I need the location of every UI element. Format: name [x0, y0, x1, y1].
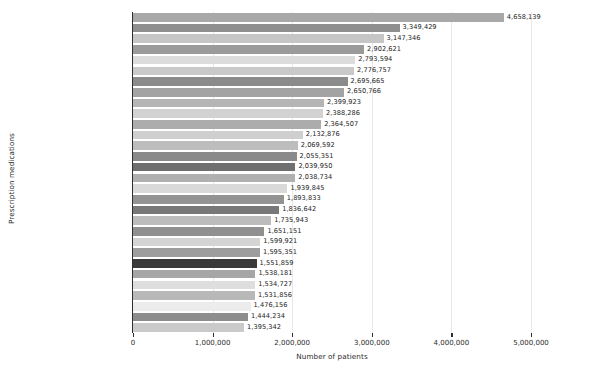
gridline: [531, 12, 532, 333]
x-axis-tick-label: 0: [131, 339, 135, 348]
bar-row: 2,132,876Gabapentin: [133, 130, 531, 141]
bar-value-label: 1,538,181: [258, 269, 292, 279]
bar-value-label: 2,695,665: [351, 77, 385, 87]
x-axis-tick: [372, 333, 373, 337]
bar-row: 2,069,592Losartan potassium: [133, 140, 531, 151]
x-axis-tick-label: 4,000,000: [434, 339, 470, 348]
bar-value-label: 1,531,856: [258, 291, 292, 301]
bar: [133, 270, 255, 279]
bar-row: 4,658,139Atorvastatin calcium: [133, 12, 531, 23]
bar-value-label: 2,388,286: [326, 109, 360, 119]
bar-row: 1,395,342Diclofenac sodium: [133, 322, 531, 333]
bar-value-label: 2,069,592: [301, 141, 335, 151]
bar: [133, 45, 364, 54]
bar: [133, 184, 287, 193]
bar: [133, 259, 257, 268]
bar: [133, 248, 260, 257]
bar-row: 3,147,346Aspirin: [133, 33, 531, 44]
x-axis-tick: [213, 333, 214, 337]
bar-value-label: 1,939,845: [290, 184, 324, 194]
bar: [133, 216, 271, 225]
bar-value-label: 1,595,351: [263, 248, 297, 258]
bar-row: 1,551,859Hydrochlorothiazide: [133, 258, 531, 269]
bar: [133, 13, 504, 22]
bar-value-label: 1,599,921: [263, 237, 297, 247]
bar-row: 2,793,594Albuterol sulfate: [133, 55, 531, 66]
bar-value-label: 1,476,156: [254, 301, 288, 311]
bar-row: 2,388,286Levothyroxine sodium: [133, 108, 531, 119]
bar-row: 2,399,923Furosemide: [133, 98, 531, 109]
bar-value-label: 2,038,734: [298, 173, 332, 183]
bar-row: 1,939,845Fluticasone propionate: [133, 183, 531, 194]
bar: [133, 67, 354, 76]
x-axis-tick-label: 5,000,000: [513, 339, 549, 348]
bar: [133, 281, 255, 290]
bar: [133, 109, 323, 118]
bar-row: 1,444,234Rosuvastatin calcium: [133, 312, 531, 323]
bar: [133, 34, 384, 43]
x-axis-tick-label: 1,000,000: [195, 339, 231, 348]
bar-row: 1,735,943Metoprolol tartrate: [133, 215, 531, 226]
bar: [133, 323, 244, 332]
bar-value-label: 1,836,642: [282, 205, 316, 215]
bar-value-label: 2,364,507: [324, 120, 358, 130]
bar: [133, 152, 297, 161]
bar-row: 2,776,757Hydrocodone/acetaminophen: [133, 66, 531, 77]
bar-row: 1,476,156Potassium chloride: [133, 301, 531, 312]
bar-value-label: 2,793,594: [358, 55, 392, 65]
bar-row: 2,650,766Acetaminophen: [133, 87, 531, 98]
bar-row: 2,695,665Prednisone: [133, 76, 531, 87]
bar-value-label: 1,444,234: [251, 312, 285, 322]
bar-row: 3,349,429Amlodipine besylate: [133, 23, 531, 34]
bar-row: 2,055,351Omeprazole: [133, 151, 531, 162]
bar: [133, 313, 248, 322]
bar: [133, 88, 344, 97]
bar-row: 1,836,642Cephalexin: [133, 205, 531, 216]
bar-row: 1,534,727Apixaban: [133, 280, 531, 291]
bar-value-label: 1,893,833: [287, 194, 321, 204]
bar-value-label: 3,147,346: [387, 34, 421, 44]
bar-row: 1,893,833Tramadol HCl: [133, 194, 531, 205]
bar: [133, 24, 400, 33]
bar: [133, 227, 264, 236]
bar-value-label: 2,902,621: [367, 45, 401, 55]
bar-value-label: 1,395,342: [247, 323, 281, 333]
bar-value-label: 2,132,876: [306, 130, 340, 140]
bar-value-label: 3,349,429: [403, 23, 437, 33]
bar-value-label: 1,735,943: [274, 216, 308, 226]
bar: [133, 77, 348, 86]
bar-value-label: 2,650,766: [347, 87, 381, 97]
plot-area: 4,658,139Atorvastatin calcium3,349,429Am…: [133, 12, 531, 333]
bar-row: 1,651,151Oxycodone HCl: [133, 226, 531, 237]
bar: [133, 174, 295, 183]
x-axis-title: Number of patients: [133, 352, 531, 362]
x-axis-tick: [292, 333, 293, 337]
bar-value-label: 2,055,351: [300, 152, 334, 162]
bar: [133, 291, 255, 300]
bar: [133, 131, 303, 140]
bar: [133, 302, 251, 311]
bar-row: 1,538,181Amoxicillin/potassium clav: [133, 269, 531, 280]
bar-value-label: 1,651,151: [267, 227, 301, 237]
bar-chart: Prescription medications 4,658,139Atorva…: [0, 0, 592, 377]
bar: [133, 120, 321, 129]
bar-row: 2,039,950Pantoprazole sodium: [133, 162, 531, 173]
bar-row: 2,364,507Metoprolol succinate: [133, 119, 531, 130]
y-axis-title: Prescription medications: [6, 12, 18, 345]
x-axis: 01,000,0002,000,0003,000,0004,000,0005,0…: [133, 333, 531, 334]
bar-row: 2,038,734Metformin HCl: [133, 173, 531, 184]
x-axis-tick-label: 2,000,000: [274, 339, 310, 348]
bar-value-label: 2,776,757: [357, 66, 391, 76]
bar-value-label: 2,039,950: [298, 162, 332, 172]
bar: [133, 99, 324, 108]
bar-value-label: 1,551,859: [260, 259, 294, 269]
bar: [133, 206, 279, 215]
bar-row: 1,599,921Azithromycin: [133, 237, 531, 248]
bar-value-label: 1,534,727: [258, 280, 292, 290]
bar-row: 2,902,621Lisinopril: [133, 44, 531, 55]
bar-value-label: 4,658,139: [507, 13, 541, 23]
bar-row: 1,531,856Polyethylene glycol 3350: [133, 290, 531, 301]
bar: [133, 56, 355, 65]
bar: [133, 141, 298, 150]
bar: [133, 163, 295, 172]
